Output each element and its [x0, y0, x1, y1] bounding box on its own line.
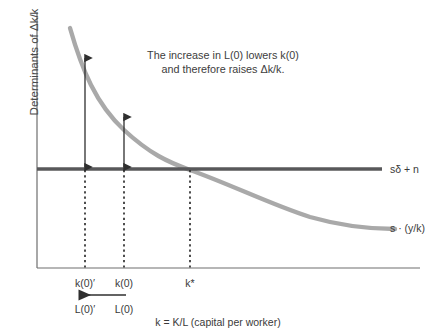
figure-canvas: Determinants of Δk/k The increase in L(0…	[0, 0, 436, 328]
annotation-line-2: and therefore raises Δk/k.	[128, 63, 318, 77]
x-axis-title: k = K/L (capital per worker)	[0, 316, 436, 328]
legend-label-depreciation-line: sδ + n	[390, 163, 419, 175]
tick-label-k0: k(0)	[95, 277, 153, 289]
y-axis-title: Determinants of Δk/k	[28, 0, 40, 142]
tick-label-kstar: k*	[161, 277, 219, 289]
annotation-text: The increase in L(0) lowers k(0) and the…	[128, 49, 318, 76]
legend-label-savings-curve: s · (y/k)	[390, 222, 425, 234]
annotation-line-1: The increase in L(0) lowers k(0)	[128, 49, 318, 63]
tick-label-L0: L(0)	[95, 303, 153, 315]
